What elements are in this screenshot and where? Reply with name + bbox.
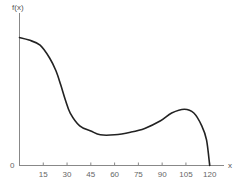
- x-tick-label: 120: [203, 170, 217, 179]
- x-tick-label: 30: [63, 170, 72, 179]
- chart: f(x) x 0 153045607590105120: [0, 0, 243, 180]
- x-axis-label: x: [228, 161, 232, 170]
- x-tick-label: 15: [39, 170, 48, 179]
- x-tick-label: 45: [86, 170, 95, 179]
- x-tick-label: 90: [158, 170, 167, 179]
- x-tick-label: 60: [110, 170, 119, 179]
- origin-label: 0: [10, 161, 15, 170]
- x-tick-label: 75: [134, 170, 143, 179]
- x-ticks: 153045607590105120: [39, 163, 217, 180]
- y-axis-label: f(x): [12, 3, 24, 12]
- data-curve: [20, 38, 210, 166]
- x-tick-label: 105: [179, 170, 193, 179]
